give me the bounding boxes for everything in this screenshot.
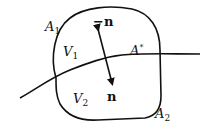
- label-V2: V2: [73, 92, 88, 108]
- label-A2: A2: [155, 107, 170, 123]
- label-A1: A1: [45, 20, 60, 36]
- normal-vector-arrow: [98, 29, 112, 83]
- label-A-star: A*: [130, 44, 143, 57]
- label-negative-n: −n: [93, 15, 113, 28]
- label-n: n: [107, 90, 116, 103]
- label-V1: V1: [63, 45, 78, 61]
